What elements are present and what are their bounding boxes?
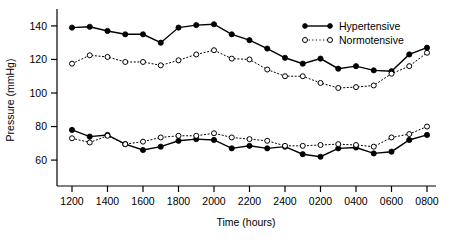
data-point-normotensive-diastolic-13 (300, 143, 305, 148)
data-point-hypertensive-systolic-20 (424, 45, 429, 50)
data-point-normotensive-diastolic-1 (87, 140, 92, 145)
data-point-hypertensive-diastolic-10 (247, 143, 252, 148)
data-point-hypertensive-systolic-16 (353, 64, 358, 69)
data-point-normotensive-systolic-4 (141, 59, 146, 64)
data-point-normotensive-diastolic-5 (158, 135, 163, 140)
data-point-normotensive-systolic-8 (212, 48, 217, 53)
data-point-normotensive-diastolic-8 (212, 131, 217, 136)
data-point-normotensive-diastolic-15 (336, 142, 341, 147)
legend-label-hypertensive: Hypertensive (339, 20, 400, 32)
data-point-hypertensive-systolic-3 (123, 32, 128, 37)
data-point-normotensive-systolic-20 (425, 50, 430, 55)
data-point-hypertensive-diastolic-18 (389, 149, 394, 154)
data-point-hypertensive-systolic-10 (247, 38, 252, 43)
data-point-hypertensive-systolic-6 (176, 25, 181, 30)
x-tick-label-2200: 2200 (238, 195, 262, 207)
chart-canvas: 6080100120140Pressure (mmHg)120014001600… (0, 0, 464, 243)
data-point-hypertensive-diastolic-11 (265, 146, 270, 151)
data-point-normotensive-systolic-2 (105, 54, 110, 59)
data-point-hypertensive-diastolic-9 (229, 146, 234, 151)
data-point-hypertensive-diastolic-19 (407, 137, 412, 142)
data-point-hypertensive-systolic-0 (69, 25, 74, 30)
data-point-hypertensive-systolic-1 (87, 24, 92, 29)
data-point-normotensive-diastolic-19 (407, 132, 412, 137)
data-point-normotensive-diastolic-20 (425, 124, 430, 129)
data-point-hypertensive-systolic-12 (282, 55, 287, 60)
data-point-normotensive-systolic-17 (371, 83, 376, 88)
y-tick-label-100: 100 (29, 87, 47, 99)
data-point-hypertensive-diastolic-0 (69, 127, 74, 132)
data-point-normotensive-diastolic-9 (229, 135, 234, 140)
y-tick-label-80: 80 (35, 120, 47, 132)
data-point-hypertensive-diastolic-13 (300, 152, 305, 157)
y-tick-label-60: 60 (35, 154, 47, 166)
data-point-hypertensive-diastolic-1 (87, 134, 92, 139)
data-point-normotensive-diastolic-0 (70, 136, 75, 141)
data-point-hypertensive-diastolic-4 (140, 147, 145, 152)
data-point-normotensive-systolic-12 (283, 74, 288, 79)
data-point-normotensive-diastolic-17 (371, 144, 376, 149)
data-point-normotensive-systolic-10 (247, 57, 252, 62)
data-point-hypertensive-systolic-14 (318, 56, 323, 61)
y-tick-label-140: 140 (29, 20, 47, 32)
data-point-normotensive-systolic-11 (265, 67, 270, 72)
data-point-normotensive-diastolic-18 (389, 135, 394, 140)
x-tick-label-1400: 1400 (96, 195, 120, 207)
x-tick-label-0200: 0200 (309, 195, 333, 207)
data-point-normotensive-systolic-1 (87, 53, 92, 58)
data-point-normotensive-diastolic-12 (283, 143, 288, 148)
y-axis-title: Pressure (mmHg) (4, 59, 16, 142)
data-point-hypertensive-diastolic-17 (371, 151, 376, 156)
data-point-normotensive-systolic-15 (336, 85, 341, 90)
x-tick-label-1800: 1800 (167, 195, 191, 207)
data-point-hypertensive-diastolic-8 (211, 137, 216, 142)
data-point-hypertensive-diastolic-6 (176, 138, 181, 143)
data-point-normotensive-systolic-14 (318, 80, 323, 85)
data-point-hypertensive-diastolic-5 (158, 144, 163, 149)
data-point-normotensive-systolic-6 (176, 58, 181, 63)
data-point-hypertensive-systolic-11 (265, 46, 270, 51)
data-point-normotensive-diastolic-10 (247, 137, 252, 142)
data-point-normotensive-diastolic-2 (105, 133, 110, 138)
data-point-normotensive-diastolic-6 (176, 133, 181, 138)
data-point-hypertensive-systolic-8 (211, 22, 216, 27)
data-point-normotensive-systolic-9 (229, 56, 234, 61)
x-axis-title: Time (hours) (216, 216, 275, 228)
data-point-hypertensive-diastolic-20 (424, 132, 429, 137)
data-point-hypertensive-systolic-7 (194, 22, 199, 27)
data-point-hypertensive-diastolic-14 (318, 154, 323, 159)
legend-marker-normotensive-1 (328, 38, 333, 43)
data-point-hypertensive-systolic-9 (229, 32, 234, 37)
data-point-normotensive-diastolic-16 (354, 142, 359, 147)
data-point-normotensive-systolic-0 (70, 61, 75, 66)
data-point-normotensive-diastolic-3 (123, 142, 128, 147)
data-point-hypertensive-systolic-17 (371, 68, 376, 73)
data-point-hypertensive-systolic-5 (158, 40, 163, 45)
legend-marker-normotensive-0 (303, 38, 308, 43)
data-point-hypertensive-systolic-2 (105, 28, 110, 33)
data-point-hypertensive-systolic-19 (407, 52, 412, 57)
data-point-normotensive-diastolic-14 (318, 142, 323, 147)
legend-marker-hypertensive-1 (328, 24, 333, 29)
data-point-normotensive-systolic-7 (194, 52, 199, 57)
data-point-normotensive-diastolic-11 (265, 138, 270, 143)
x-tick-label-0800: 0800 (415, 195, 439, 207)
x-tick-label-2400: 2400 (273, 195, 297, 207)
x-tick-label-1200: 1200 (60, 195, 84, 207)
data-point-normotensive-systolic-18 (389, 71, 394, 76)
data-point-hypertensive-systolic-15 (336, 66, 341, 71)
data-point-normotensive-systolic-5 (158, 63, 163, 68)
data-point-normotensive-systolic-19 (407, 64, 412, 69)
x-tick-label-0400: 0400 (344, 195, 368, 207)
data-point-hypertensive-systolic-4 (140, 32, 145, 37)
data-point-normotensive-diastolic-4 (141, 139, 146, 144)
x-tick-label-1600: 1600 (131, 195, 155, 207)
blood-pressure-chart: 6080100120140Pressure (mmHg)120014001600… (0, 0, 464, 243)
data-point-normotensive-systolic-3 (123, 59, 128, 64)
x-tick-label-2000: 2000 (202, 195, 226, 207)
data-point-normotensive-systolic-13 (300, 74, 305, 79)
x-tick-label-0600: 0600 (380, 195, 404, 207)
data-point-hypertensive-systolic-13 (300, 61, 305, 66)
y-tick-label-120: 120 (29, 53, 47, 65)
legend-marker-hypertensive-0 (303, 24, 308, 29)
